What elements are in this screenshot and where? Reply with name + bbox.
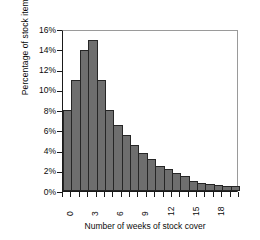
- histogram-figure: Percentage of stock items 0%2%4%6%8%10%1…: [0, 0, 260, 240]
- x-axis-tick-label: 9: [141, 211, 150, 216]
- y-axis-tick-label: 14%: [39, 46, 56, 55]
- x-axis-title: Number of weeks of stock cover: [40, 221, 250, 231]
- y-axis-tick-label: 8%: [44, 107, 56, 116]
- y-axis-tick-label: 2%: [44, 167, 56, 176]
- x-axis-tick-label: 0: [66, 211, 75, 216]
- y-axis-tick-label: 6%: [44, 127, 56, 136]
- y-axis-tick-label: 0%: [44, 188, 56, 197]
- x-axis-tick-label: 18: [217, 207, 226, 216]
- y-axis-tick-labels: 0%2%4%6%8%10%12%14%16%: [20, 0, 56, 240]
- plot-area: [62, 30, 238, 192]
- x-axis-tick-label: 15: [192, 207, 201, 216]
- bar: [231, 186, 240, 191]
- x-axis-tick-labels: 0369121518: [62, 197, 240, 219]
- x-axis-tick-label: 3: [91, 211, 100, 216]
- bar-series: [63, 31, 237, 191]
- y-axis-tick-label: 16%: [39, 26, 56, 35]
- y-axis-tick-label: 4%: [44, 147, 56, 156]
- y-axis-tick-label: 12%: [39, 66, 56, 75]
- x-axis-tick-label: 12: [167, 207, 176, 216]
- y-axis-tick-label: 10%: [39, 86, 56, 95]
- x-axis-tick-label: 6: [116, 211, 125, 216]
